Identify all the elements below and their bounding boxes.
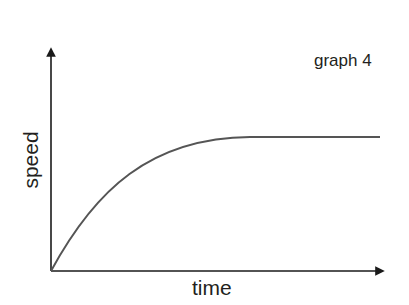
chart-canvas — [0, 0, 409, 305]
chart-title: graph 4 — [314, 51, 372, 71]
x-axis-label: time — [192, 276, 232, 300]
speed-curve — [51, 137, 380, 271]
y-axis-label: speed — [19, 131, 43, 188]
